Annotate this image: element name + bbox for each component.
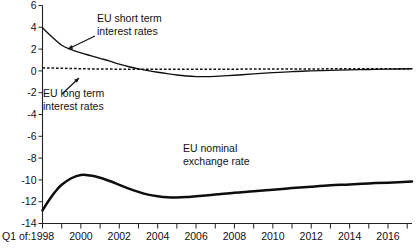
x-axis-tick-label: 2004: [146, 230, 170, 242]
chart-container: 6420-2-4-6-8-10-12-141998200020022004200…: [0, 0, 417, 252]
annotation-line: interest rates: [43, 100, 104, 112]
y-axis-tick-label: 0: [31, 65, 37, 77]
y-axis-tick-label: 6: [31, 0, 37, 11]
x-axis-tick-label: 1998: [31, 230, 55, 242]
x-axis-tick-label: 2010: [261, 230, 285, 242]
annotation-line: EU long term: [43, 87, 105, 99]
y-axis-tick-label: -10: [21, 174, 36, 186]
y-axis-tick-label: -2: [27, 86, 36, 98]
annotation-line: exchange rate: [183, 155, 250, 167]
x-axis-tick-label: 2014: [338, 230, 362, 242]
x-axis-tick-label: 2006: [184, 230, 208, 242]
y-axis-tick-label: -12: [21, 195, 36, 207]
annotation-exchange-rate: EU nominalexchange rate: [183, 142, 250, 167]
y-axis-tick-label: 2: [31, 43, 37, 55]
annotation-line: EU short term: [97, 12, 162, 24]
series-eu-nominal-exchange-rate: [43, 175, 413, 211]
y-axis-tick-label: 4: [31, 21, 37, 33]
y-axis-tick-label: -8: [27, 152, 36, 164]
x-axis-tick-label: 2000: [69, 230, 93, 242]
annotation-line: interest rates: [97, 25, 158, 37]
annotation-long-term: EU long terminterest rates: [43, 87, 105, 112]
annotation-line: EU nominal: [183, 142, 237, 154]
x-axis-tick-label: 2008: [223, 230, 247, 242]
y-axis-tick-label: -6: [27, 130, 36, 142]
x-axis-tick-label: 2002: [108, 230, 132, 242]
x-axis-tick-label: 2016: [376, 230, 400, 242]
annotation-short-term: EU short terminterest rates: [97, 12, 162, 37]
x-axis-tick-label: 2012: [300, 230, 324, 242]
line-chart: 6420-2-4-6-8-10-12-141998200020022004200…: [0, 0, 417, 252]
x-axis-origin-label: Q1 of:: [2, 230, 31, 242]
y-axis-tick-label: -4: [27, 108, 36, 120]
y-axis-tick-label: -14: [21, 217, 36, 229]
